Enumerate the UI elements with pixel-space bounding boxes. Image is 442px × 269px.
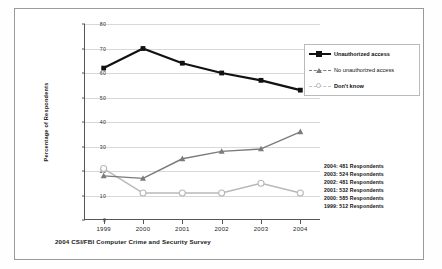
- x-axis-tick-label: 2002: [214, 226, 229, 232]
- square-marker: [101, 66, 106, 71]
- x-axis-tick-label: 2004: [293, 226, 308, 232]
- x-axis-tick: [300, 220, 301, 224]
- circle-marker: [179, 190, 185, 196]
- legend-item-label: Unauthorized access: [334, 51, 390, 57]
- square-marker: [298, 88, 303, 93]
- y-axis-title: Percentage of Respondents: [43, 83, 49, 162]
- x-axis-tick: [104, 220, 105, 224]
- figure-page: Percentage of Respondents 01020304050607…: [0, 0, 442, 269]
- circle-marker: [101, 166, 107, 172]
- triangle-marker: [297, 129, 303, 135]
- x-axis-tick: [182, 220, 183, 224]
- legend-item-label: Don't know: [334, 83, 364, 89]
- respondents-line: 2001: 532 Respondents: [324, 186, 428, 194]
- circle-marker: [309, 82, 331, 91]
- square-marker: [180, 61, 185, 66]
- series-layer: [84, 24, 320, 220]
- x-axis-tick: [143, 220, 144, 224]
- x-axis-tick: [261, 220, 262, 224]
- figure-caption: 2004 CSI/FBI Computer Crime and Security…: [55, 238, 211, 245]
- circle-marker: [297, 190, 303, 196]
- series-square: [101, 46, 302, 92]
- triangle-marker: [309, 66, 331, 75]
- x-axis-tick-label: 1999: [96, 226, 111, 232]
- legend-item-circle[interactable]: Don't know: [309, 80, 364, 92]
- circle-marker: [140, 190, 146, 196]
- circle-marker: [258, 180, 264, 186]
- respondents-note: 2004: 481 Respondents2003: 524 Responden…: [324, 162, 428, 211]
- respondents-line: 2002: 481 Respondents: [324, 178, 428, 186]
- series-triangle: [101, 129, 304, 181]
- x-axis-tick-label: 2003: [254, 226, 269, 232]
- x-axis-tick-label: 2000: [136, 226, 151, 232]
- series-circle: [101, 166, 304, 197]
- legend-item-label: No unauthorized access: [334, 67, 394, 73]
- x-axis-tick: [222, 220, 223, 224]
- line-chart: Percentage of Respondents 01020304050607…: [48, 14, 380, 232]
- square-marker: [259, 78, 264, 83]
- square-marker: [219, 71, 224, 76]
- legend-item-triangle[interactable]: No unauthorized access: [309, 64, 394, 76]
- respondents-line: 2003: 524 Respondents: [324, 170, 428, 178]
- chart-legend: Unauthorized accessNo unauthorized acces…: [304, 44, 420, 96]
- x-axis-tick-label: 2001: [175, 226, 190, 232]
- circle-marker: [219, 190, 225, 196]
- respondents-line: 2004: 481 Respondents: [324, 162, 428, 170]
- square-marker: [309, 50, 331, 59]
- respondents-line: 1999: 512 Respondents: [324, 202, 428, 210]
- legend-item-square[interactable]: Unauthorized access: [309, 48, 390, 60]
- respondents-line: 2000: 585 Respondents: [324, 194, 428, 202]
- square-marker: [141, 46, 146, 51]
